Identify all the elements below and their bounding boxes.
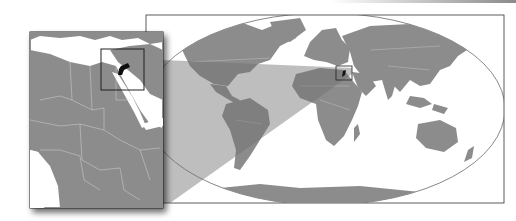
inset-map-panel <box>30 32 163 208</box>
world-map-panel <box>145 13 505 210</box>
jordan-location-map <box>0 0 516 221</box>
